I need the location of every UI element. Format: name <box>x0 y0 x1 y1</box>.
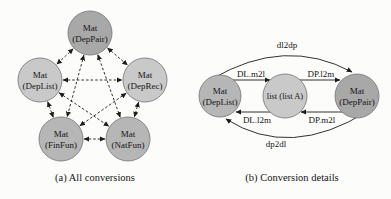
node-mat-deplist-a: Mat (DepList) <box>18 58 62 102</box>
node-list-a: list (list A) <box>263 74 307 118</box>
edge-label-dp2dl: dp2dl <box>266 139 287 149</box>
node-label-deppair-b-line1: Mat <box>350 86 365 96</box>
node-mat-deppair-a: Mat (DepPair) <box>68 11 112 55</box>
edge-label-dl-m2l: DL.m2l <box>237 69 266 79</box>
diagram-all-conversions: Mat (DepPair) Mat (DepList) Mat (DepRec)… <box>18 11 167 184</box>
caption-b: (b) Conversion details <box>245 172 338 184</box>
edge-deppair-deprec <box>108 48 128 65</box>
node-circle-deplist-b <box>199 75 241 117</box>
diagram-conversion-details: Mat (DepList) list (list A) Mat (DepPair… <box>199 40 379 184</box>
node-circle-finfun-a <box>39 117 83 161</box>
node-label-list: list (list A) <box>267 91 304 101</box>
node-circle-deplist-a <box>18 58 62 102</box>
node-label-deplist-b-line1: Mat <box>213 86 228 96</box>
node-label-deplist-a-line1: Mat <box>33 70 48 80</box>
node-label-deppair-a-line1: Mat <box>83 23 98 33</box>
node-label-deppair-b-line2: (DepPair) <box>339 97 375 107</box>
node-label-finfun-a-line2: (FinFun) <box>45 140 77 150</box>
node-label-deplist-b-line2: (DepList) <box>203 97 238 107</box>
node-label-deppair-a-line2: (DepPair) <box>72 34 108 44</box>
edge-deppair-natfun <box>98 55 120 118</box>
node-label-finfun-a-line1: Mat <box>54 129 69 139</box>
edge-label-dp-m2l: DP.m2l <box>309 115 336 125</box>
edge-label-dp-l2m: DP.l2m <box>308 69 335 79</box>
node-mat-natfun-a: Mat (NatFun) <box>106 117 150 161</box>
node-circle-deppair-a <box>68 11 112 55</box>
node-mat-finfun-a: Mat (FinFun) <box>39 117 83 161</box>
node-circle-deppair-b <box>335 74 379 118</box>
node-mat-deplist-b: Mat (DepList) <box>199 75 241 117</box>
node-circle-natfun-a <box>106 117 150 161</box>
edge-deppair-deplist <box>57 49 73 64</box>
node-label-deprec-a-line2: (DepRec) <box>128 81 163 91</box>
edge-deprec-natfun <box>134 102 138 117</box>
edge-label-dl-l2m: DL.l2m <box>243 115 271 125</box>
node-mat-deppair-b: Mat (DepPair) <box>335 74 379 118</box>
edge-label-dl2dp: dl2dp <box>277 40 298 50</box>
node-label-natfun-a-line2: (NatFun) <box>112 140 145 150</box>
node-label-deprec-a-line1: Mat <box>138 70 153 80</box>
node-circle-deprec-a <box>123 58 167 102</box>
node-label-deplist-a-line2: (DepList) <box>23 81 58 91</box>
node-mat-deprec-a: Mat (DepRec) <box>123 58 167 102</box>
edge-deppair-finfun <box>67 55 84 117</box>
conversion-figure: Mat (DepPair) Mat (DepList) Mat (DepRec)… <box>0 0 391 199</box>
caption-a: (a) All conversions <box>55 172 135 184</box>
edge-deplist-finfun <box>48 102 54 118</box>
node-label-natfun-a-line1: Mat <box>121 129 136 139</box>
